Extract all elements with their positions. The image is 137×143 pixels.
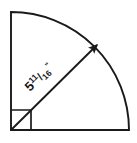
geometry-figure-container: 511/16" <box>0 0 137 143</box>
quarter-circle-diagram: 511/16" <box>0 0 137 143</box>
